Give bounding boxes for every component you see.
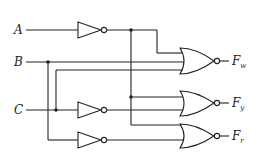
junction-dot xyxy=(129,28,133,32)
nor-gate-fy xyxy=(180,91,214,116)
logic-circuit xyxy=(0,0,257,165)
inverter-b xyxy=(78,132,101,148)
output-label-fy: Fy xyxy=(232,97,244,112)
junction-dot xyxy=(46,60,50,64)
input-label-b: B xyxy=(14,56,23,68)
nor-gate-fw xyxy=(180,48,214,74)
output-label-fr: Fr xyxy=(232,130,244,145)
nor-gate-fr xyxy=(180,124,214,148)
junction-dot xyxy=(54,108,58,112)
output-label-fw: Fw xyxy=(232,55,246,70)
inverter-a xyxy=(78,22,101,38)
inverter-a-bubble xyxy=(101,27,106,32)
input-label-c: C xyxy=(14,104,23,116)
inverter-c xyxy=(78,102,101,118)
junction-dot xyxy=(129,95,133,99)
input-label-a: A xyxy=(14,24,23,36)
